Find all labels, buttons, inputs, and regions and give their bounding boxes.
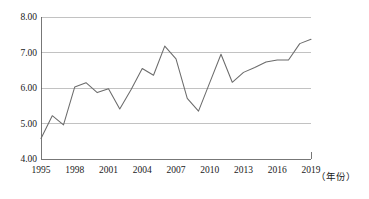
x-tick-labels-group: 199519982001200420072010201320162019 <box>32 165 321 175</box>
x-tick-label: 2007 <box>167 165 186 175</box>
x-tick-label: 1998 <box>65 165 84 175</box>
gridlines-group <box>41 17 311 124</box>
x-tick-label: 2004 <box>133 165 152 175</box>
x-axis-caption-label: （年份） <box>316 171 356 182</box>
y-tick-label: 7.00 <box>20 48 37 58</box>
y-tick-label: 8.00 <box>20 12 37 22</box>
x-tick-label: 2016 <box>268 165 287 175</box>
line-chart-figure: 4.005.006.007.008.00 1995199820012004200… <box>0 0 369 199</box>
y-tick-labels-group: 4.005.006.007.008.00 <box>20 12 37 164</box>
x-tick-label: 1995 <box>32 165 51 175</box>
y-tick-label: 4.00 <box>20 154 37 164</box>
chart-canvas: 4.005.006.007.008.00 1995199820012004200… <box>0 0 369 199</box>
y-tick-label: 6.00 <box>20 83 37 93</box>
x-tick-label: 2013 <box>234 165 253 175</box>
y-tick-label: 5.00 <box>20 119 37 129</box>
x-tick-label: 2001 <box>99 165 118 175</box>
x-tick-label: 2010 <box>200 165 219 175</box>
